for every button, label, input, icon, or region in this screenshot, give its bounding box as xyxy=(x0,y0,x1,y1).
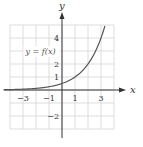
x-tick-label: 1 xyxy=(72,94,77,103)
y-tick-label: −2 xyxy=(47,112,59,121)
x-axis-arrow-icon xyxy=(119,88,126,93)
y-tick-label: 2 xyxy=(54,60,59,69)
y-axis-arrow-icon xyxy=(60,12,65,19)
y-axis-label: y xyxy=(58,0,65,11)
function-label: y = f(x) xyxy=(25,47,56,56)
chart: x y −3−1131234−2 y = f(x) xyxy=(0,0,143,147)
x-tick-label: −1 xyxy=(43,94,55,103)
x-tick-label: 3 xyxy=(98,94,103,103)
y-tick-label: 4 xyxy=(54,34,59,43)
y-tick-label: 1 xyxy=(54,73,59,82)
x-tick-label: −3 xyxy=(17,94,29,103)
x-axis-label: x xyxy=(130,84,136,95)
